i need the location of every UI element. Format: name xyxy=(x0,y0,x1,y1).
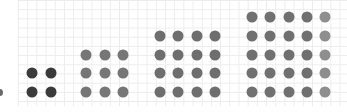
dot xyxy=(265,12,276,23)
dot xyxy=(192,31,203,42)
dot xyxy=(302,50,313,61)
dot xyxy=(265,87,276,98)
partial-dot-edge xyxy=(0,89,3,96)
dot xyxy=(192,87,203,98)
dot xyxy=(247,50,258,61)
dot xyxy=(173,50,184,61)
dot xyxy=(210,68,221,79)
dot xyxy=(155,50,166,61)
dot xyxy=(302,68,313,79)
dot xyxy=(81,68,92,79)
dot xyxy=(320,50,331,61)
dot xyxy=(100,87,111,98)
dot xyxy=(27,87,38,98)
dot xyxy=(46,87,57,98)
dot xyxy=(155,31,166,42)
dot xyxy=(247,68,258,79)
dot xyxy=(173,68,184,79)
dot xyxy=(118,87,129,98)
dot xyxy=(46,68,57,79)
dot xyxy=(284,12,295,23)
dot xyxy=(302,31,313,42)
dot xyxy=(247,87,258,98)
dot xyxy=(100,68,111,79)
dot xyxy=(247,12,258,23)
dot xyxy=(173,31,184,42)
dot xyxy=(320,87,331,98)
dot xyxy=(265,68,276,79)
dot xyxy=(320,31,331,42)
dot xyxy=(192,50,203,61)
dot xyxy=(247,31,258,42)
dot xyxy=(100,50,111,61)
dot xyxy=(320,12,331,23)
dot xyxy=(27,68,38,79)
dot xyxy=(284,87,295,98)
dot xyxy=(81,50,92,61)
dot xyxy=(320,68,331,79)
dot xyxy=(302,12,313,23)
dot xyxy=(81,87,92,98)
dot xyxy=(155,68,166,79)
dot xyxy=(210,50,221,61)
dot xyxy=(265,31,276,42)
dot xyxy=(210,31,221,42)
dot xyxy=(210,87,221,98)
dot xyxy=(192,68,203,79)
dot xyxy=(284,50,295,61)
dot xyxy=(118,68,129,79)
dot xyxy=(284,68,295,79)
dot xyxy=(265,50,276,61)
dot xyxy=(302,87,313,98)
dot xyxy=(173,87,184,98)
dot xyxy=(118,50,129,61)
dot xyxy=(155,87,166,98)
dot xyxy=(284,31,295,42)
